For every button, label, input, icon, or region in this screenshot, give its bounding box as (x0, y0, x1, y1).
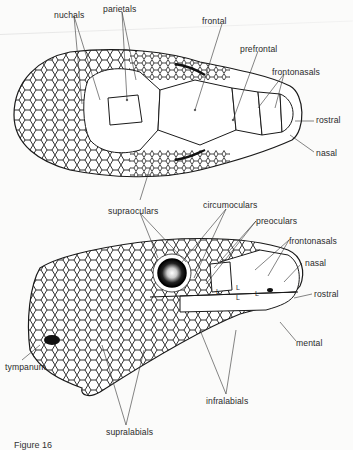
label-rostral-lateral: rostral (314, 289, 339, 299)
label-prefrontal: prefrontal (240, 44, 277, 54)
label-rostral-dorsal: rostral (316, 115, 341, 125)
lacrimal-mark: L (236, 294, 240, 301)
label-mental: mental (296, 338, 322, 348)
lateral-head (20, 230, 303, 410)
label-tympanum: tympanum (5, 362, 46, 372)
label-preoculars: preoculars (256, 216, 297, 226)
lacrimal-mark: L (216, 288, 220, 295)
label-frontonasals-lateral: frontonasals (289, 236, 337, 246)
dorsal-head (0, 40, 302, 190)
tympanum-icon (44, 335, 60, 345)
nostril-icon (267, 288, 273, 292)
label-nasal-dorsal: nasal (316, 148, 337, 158)
lacrimal-mark: L (236, 284, 240, 291)
label-nasal-lateral: nasal (305, 258, 326, 268)
label-frontonasals-dorsal: frontonasals (272, 67, 320, 77)
lacrimal-mark: L (255, 290, 259, 297)
label-infralabials: infralabials (206, 396, 248, 406)
label-parietals: parietals (103, 4, 136, 14)
figure-caption: Figure 16 (14, 440, 52, 450)
label-frontal: frontal (202, 16, 227, 26)
label-supraoculars: supraoculars (108, 206, 158, 216)
label-nuchals: nuchals (54, 10, 84, 20)
eye-icon (158, 259, 186, 287)
label-supralabials: supralabials (106, 427, 153, 437)
label-circumoculars: circumoculars (203, 200, 257, 210)
